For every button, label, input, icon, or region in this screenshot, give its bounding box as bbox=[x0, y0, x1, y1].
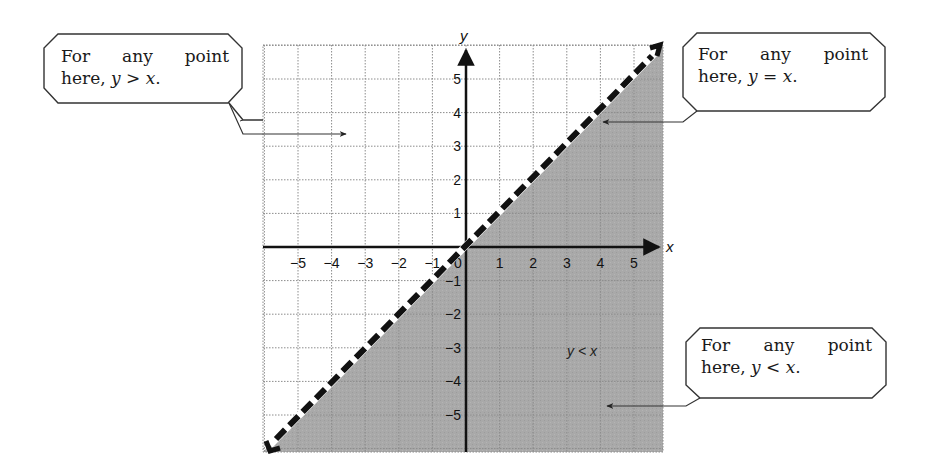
y-tick-label: 4 bbox=[453, 105, 461, 121]
y-tick-label: 5 bbox=[453, 71, 461, 87]
y-tick-label: −3 bbox=[445, 340, 461, 356]
x-tick-label: −2 bbox=[391, 255, 407, 271]
x-tick-label: −3 bbox=[357, 255, 373, 271]
x-tick-label: −5 bbox=[290, 255, 306, 271]
y-tick-label: 2 bbox=[453, 172, 461, 188]
x-tick-label: 3 bbox=[563, 255, 571, 271]
y-tick-label: 1 bbox=[453, 205, 461, 221]
x-axis-label: x bbox=[665, 238, 674, 255]
y-tick-label: −4 bbox=[445, 373, 461, 389]
y-tick-label: −5 bbox=[445, 407, 461, 423]
inequality-figure: x y −5−4−3−2−1012345 54321−1−2−3−4−5 y <… bbox=[0, 0, 928, 471]
x-tick-label: −4 bbox=[324, 255, 340, 271]
x-tick-label: 4 bbox=[597, 255, 605, 271]
callout-tail-above bbox=[229, 103, 263, 120]
y-axis-label: y bbox=[459, 27, 469, 44]
callout-text-below: For any point here, y < x. bbox=[701, 334, 872, 378]
y-tick-label: −2 bbox=[445, 306, 461, 322]
x-tick-label: 1 bbox=[496, 255, 504, 271]
x-tick-label: −1 bbox=[424, 255, 440, 271]
callout-text-on-line: For any point here, y = x. bbox=[698, 43, 868, 87]
x-tick-label: 2 bbox=[529, 255, 537, 271]
x-tick-label: 5 bbox=[630, 255, 638, 271]
region-label: y < x bbox=[566, 343, 598, 359]
callout-text-above: For any point here, y > x. bbox=[61, 45, 229, 89]
y-tick-label: −1 bbox=[445, 273, 461, 289]
y-tick-label: 3 bbox=[453, 138, 461, 154]
